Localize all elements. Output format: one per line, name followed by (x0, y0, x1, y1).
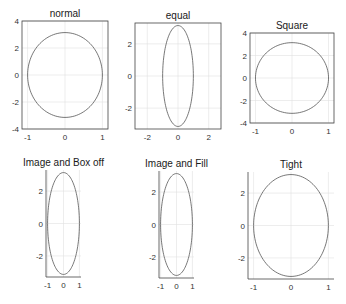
x-tick-label: 0 (63, 133, 68, 142)
y-tick-label: 4 (243, 29, 248, 38)
y-tick-label: 4 (15, 17, 20, 26)
subplot-title: Tight (280, 159, 302, 170)
y-tick-label: -2 (36, 252, 44, 261)
y-tick-label: 0 (128, 72, 133, 81)
figure: -101-4-2024normal-202-202equal-101-4-202… (0, 0, 346, 304)
x-tick-label: 1 (326, 127, 331, 136)
x-tick-label: 0 (61, 281, 66, 290)
x-tick-label: -1 (157, 282, 165, 291)
x-tick-label: -1 (250, 283, 258, 292)
x-tick-label: 0 (174, 282, 179, 291)
subplot-title: Square (276, 20, 309, 31)
y-tick-label: 2 (241, 189, 246, 198)
subplot-square: -101-4-2024Square (240, 20, 334, 136)
y-tick-label: -2 (238, 254, 246, 263)
y-tick-label: -2 (240, 97, 248, 106)
y-tick-label: 2 (39, 187, 44, 196)
x-tick-label: 1 (190, 282, 195, 291)
y-tick-label: -2 (12, 98, 20, 107)
x-tick-label: 0 (290, 127, 295, 136)
x-tick-label: 1 (326, 283, 331, 292)
y-tick-label: -2 (149, 253, 157, 262)
x-tick-label: -2 (144, 133, 152, 142)
y-tick-label: -2 (125, 104, 133, 113)
y-tick-label: 2 (243, 52, 248, 61)
y-tick-label: 0 (39, 220, 44, 229)
y-tick-label: 2 (152, 188, 157, 197)
y-tick-label: -4 (12, 125, 20, 134)
y-tick-label: 0 (152, 221, 157, 230)
x-tick-label: 1 (100, 133, 105, 142)
subplot-equal: -202-202equal (125, 10, 221, 142)
y-tick-label: 2 (15, 44, 20, 53)
subplot-title: equal (166, 10, 190, 21)
x-tick-label: -1 (24, 133, 32, 142)
x-tick-label: -1 (44, 281, 52, 290)
y-tick-label: 0 (15, 71, 20, 80)
y-tick-label: -4 (240, 119, 248, 128)
x-tick-label: 1 (77, 281, 82, 290)
subplot-tight: -101-202Tight (238, 159, 334, 292)
x-tick-label: 2 (206, 133, 211, 142)
x-tick-label: 0 (289, 283, 294, 292)
y-tick-label: 0 (243, 74, 248, 83)
subplot-title: Image and Box off (23, 157, 104, 168)
subplot-normal: -101-4-2024normal (12, 8, 108, 142)
y-tick-label: 2 (128, 40, 133, 49)
x-tick-label: 0 (176, 133, 181, 142)
y-tick-label: 0 (241, 222, 246, 231)
subplot-title: normal (50, 8, 81, 19)
subplot-title: Image and Fill (145, 158, 208, 169)
subplot-image: -101-202Image and Fill (145, 158, 208, 291)
subplot-image: -101-202Image and Box off (23, 157, 104, 290)
x-tick-label: -1 (252, 127, 260, 136)
